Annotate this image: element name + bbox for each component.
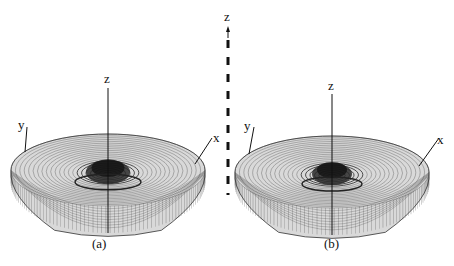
axis-label-y: y bbox=[244, 119, 251, 132]
axis-label-x: x bbox=[213, 131, 220, 144]
axis-label-y: y bbox=[18, 118, 25, 131]
wireframe-group bbox=[11, 88, 212, 236]
caption-a: (a) bbox=[92, 236, 106, 252]
y-axis-line bbox=[25, 127, 27, 152]
caption-b: (b) bbox=[324, 236, 339, 252]
panel-a: z y x (a) bbox=[0, 0, 227, 266]
surface-b-wireframe bbox=[227, 0, 454, 266]
axis-label-z: z bbox=[328, 79, 334, 92]
x-axis-line bbox=[195, 138, 212, 164]
wireframe-group bbox=[235, 94, 439, 238]
axis-label-z: z bbox=[104, 72, 110, 85]
axis-label-x: x bbox=[437, 133, 444, 146]
x-axis-line bbox=[419, 138, 439, 166]
surface-a-wireframe bbox=[0, 0, 227, 266]
panel-b: z y x (b) bbox=[227, 0, 454, 266]
